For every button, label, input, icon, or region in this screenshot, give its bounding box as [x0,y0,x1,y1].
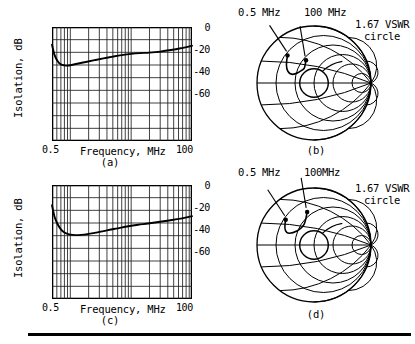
line-chart-panel-c: Isolation, dB 0 -20 -40 -60 0.5 Frequenc… [0,166,210,316]
panel-tag-b: (b) [296,144,336,156]
smith-d-label-high: 100MHz [304,166,340,178]
smith-chart-graphic-d [212,182,415,314]
smith-d-label-low: 0.5 MHz [238,166,280,178]
x-tick-label-a-left: 0.5 [42,145,59,155]
y-axis-label-a: Isolation, dB [12,38,24,118]
panel-tag-d: (d) [296,308,336,320]
x-tick-label-c-left: 0.5 [42,303,59,313]
x-tick-label-a-right: 100 [176,145,193,155]
bottom-horizontal-rule [28,333,411,336]
smith-chart-panel-b: 0.5 MHz 100 MHz 1.67 VSWR circle [212,0,415,160]
figure-container: Isolation, dB 0 -20 -40 -60 0.5 Frequenc… [0,0,415,344]
line-chart-panel-a: Isolation, dB 0 -20 -40 -60 0.5 Frequenc… [0,8,210,156]
smith-chart-graphic-b [212,20,415,152]
x-tick-label-c-right: 100 [176,303,193,313]
smith-b-label-low: 0.5 MHz [238,6,280,18]
plot-area-c [52,185,192,299]
smith-b-label-high: 100 MHz [304,6,346,18]
y-axis-label-c: Isolation, dB [12,198,24,278]
panel-tag-c: (c) [90,314,130,326]
smith-chart-panel-d: 0.5 MHz 100MHz 1.67 VSWR circle [212,160,415,320]
plot-area-a [52,27,192,141]
